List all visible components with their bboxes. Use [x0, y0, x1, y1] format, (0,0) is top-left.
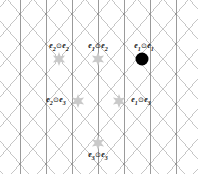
marker-e1-e1	[136, 53, 149, 66]
lattice-figure: e2⊙e2e1⊙e2e1⊙e1e2⊙e3e1⊙e3e3⊙e3	[0, 0, 198, 174]
figure-background	[0, 0, 198, 174]
lattice-grid	[0, 0, 198, 174]
